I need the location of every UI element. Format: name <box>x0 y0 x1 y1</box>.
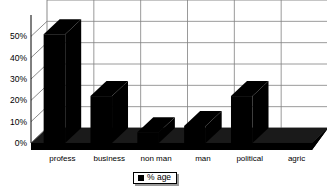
bar-front-face <box>90 96 112 143</box>
bar-front-face <box>137 132 159 143</box>
bar-side-face <box>65 19 81 143</box>
bar-profess <box>44 19 82 143</box>
chart-canvas: 0%10%20%30%40%50%professbusinessnon manm… <box>0 0 327 194</box>
bar-chart: 0%10%20%30%40%50%professbusinessnon manm… <box>0 0 327 194</box>
x-axis-tick-label: business <box>93 154 125 163</box>
floor-front-edge <box>31 143 312 150</box>
bar-front-face <box>184 126 206 143</box>
legend-swatch-percent-age <box>138 175 144 181</box>
x-axis-tick-label: profess <box>49 154 75 163</box>
legend-label-percent-age: % age <box>147 173 171 182</box>
y-axis-tick-label: 20% <box>10 95 27 105</box>
bar-front-face <box>44 34 66 143</box>
bar-front-face <box>231 96 253 143</box>
x-axis-tick-label: man <box>195 154 211 163</box>
chart-legend: % age <box>133 172 177 184</box>
x-axis-tick-label: political <box>236 154 263 163</box>
y-axis-tick-label: 40% <box>10 53 27 63</box>
grid-group <box>47 0 327 128</box>
x-axis-tick-label: agric <box>288 154 305 163</box>
y-axis-tick-label: 0% <box>15 138 28 148</box>
y-axis-tick-label: 10% <box>10 117 27 127</box>
y-axis-tick-label: 30% <box>10 74 27 84</box>
y-axis-tick-label: 50% <box>10 31 27 41</box>
x-axis-tick-label: non man <box>141 154 172 163</box>
